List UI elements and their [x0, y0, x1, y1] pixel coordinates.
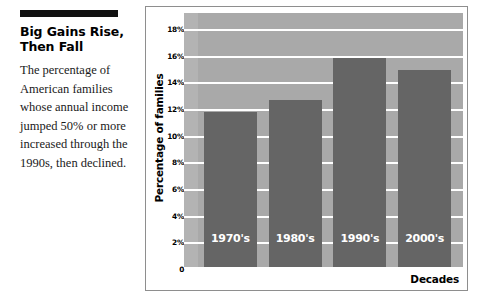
- y-axis-title-container: Percentage of families: [148, 7, 168, 269]
- y-axis-tick-label: 12%: [167, 105, 184, 114]
- headline-rule: [20, 10, 118, 17]
- y-axis-tick-label: 14%: [167, 78, 184, 87]
- baseline: [184, 267, 463, 269]
- y-axis-tick-labels: 02%4%6%8%10%12%14%16%18%: [166, 7, 184, 269]
- y-axis-tick-label: 8%: [172, 158, 184, 167]
- bar-column: 1980's: [269, 13, 322, 269]
- y-axis-tick-label: 10%: [167, 131, 184, 140]
- x-axis-title: Decades: [410, 273, 459, 285]
- bar: 1970's: [204, 112, 257, 269]
- article-body: The percentage of American families whos…: [20, 61, 132, 173]
- bar-category-label: 1990's: [333, 232, 386, 245]
- y-axis-tick-label: 18%: [167, 25, 184, 34]
- bar-column: 1970's: [204, 13, 257, 269]
- bar-category-label: 1970's: [204, 232, 257, 245]
- bar-column: 2000's: [398, 13, 451, 269]
- bar-category-label: 2000's: [398, 232, 451, 245]
- bar-chart: Percentage of families 02%4%6%8%10%12%14…: [145, 6, 468, 291]
- bar: 2000's: [398, 70, 451, 269]
- y-axis-tick-label: 16%: [167, 51, 184, 60]
- y-axis-tick-label: 6%: [172, 185, 184, 194]
- bar: 1990's: [333, 58, 386, 269]
- y-axis-tick-label: 4%: [172, 211, 184, 220]
- article-text-column: Big Gains Rise, Then Fall The percentage…: [20, 10, 132, 173]
- y-axis-title: Percentage of families: [152, 73, 164, 202]
- bar-column: 1990's: [333, 13, 386, 269]
- page-title: Big Gains Rise, Then Fall: [20, 24, 132, 54]
- bar-category-label: 1980's: [269, 232, 322, 245]
- axis-strip: [184, 13, 198, 269]
- y-axis-tick-label: 2%: [172, 238, 184, 247]
- bar: 1980's: [269, 100, 322, 269]
- plot-area: 1970's1980's1990's2000's: [184, 13, 463, 269]
- bar-series: 1970's1980's1990's2000's: [198, 13, 457, 269]
- infographic-page: Big Gains Rise, Then Fall The percentage…: [0, 0, 489, 307]
